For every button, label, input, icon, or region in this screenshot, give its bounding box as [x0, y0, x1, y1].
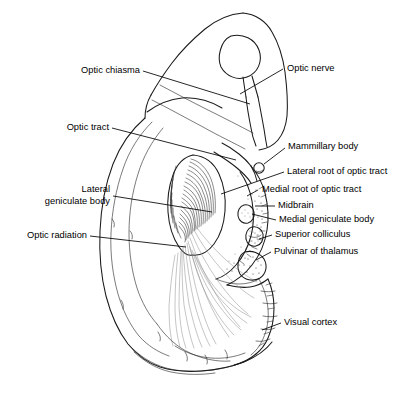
optic-nerve-stalk [246, 97, 267, 147]
label-lateral-geniculate-body-line2: geniculate body [45, 196, 110, 206]
label-pulvinar-of-thalamus: Pulvinar of thalamus [274, 246, 359, 256]
label-optic-radiation: Optic radiation [27, 230, 87, 240]
leader-optic-tract [112, 128, 236, 160]
superior-colliculus-shape [246, 227, 263, 246]
optic-radiation-fibers [169, 225, 257, 348]
eyeball-orbit-outline [219, 35, 260, 97]
leader-lines [90, 69, 285, 330]
label-medial-root-of-optic-tract: Medial root of optic tract [262, 184, 362, 194]
midbrain-brainstem [216, 166, 268, 287]
label-optic-nerve: Optic nerve [287, 63, 335, 73]
label-lateral-root-of-optic-tract: Lateral root of optic tract [287, 166, 388, 176]
diagram-canvas: Optic chiasma Optic nerve Optic tract Ma… [0, 0, 416, 393]
leader-mammillary-body [264, 148, 285, 164]
label-visual-cortex: Visual cortex [284, 317, 337, 327]
lateral-geniculate-body [168, 155, 226, 255]
label-superior-colliculus: Superior colliculus [275, 229, 351, 239]
frontal-gyri-lines [147, 85, 253, 149]
medial-geniculate-body-shape [238, 205, 254, 223]
leader-medial-geniculate [252, 214, 276, 220]
label-medial-geniculate-body: Medial geniculate body [279, 214, 374, 224]
occipital-medial-contours [234, 279, 277, 365]
mammillary-body-shape [254, 163, 264, 173]
leader-optic-radiation [90, 236, 186, 247]
label-mammillary-body: Mammillary body [288, 141, 359, 151]
anatomical-figure-visual-pathway: Optic chiasma Optic nerve Optic tract Ma… [0, 0, 416, 393]
label-optic-tract: Optic tract [67, 122, 110, 132]
frontal-lobe-outline [145, 13, 287, 150]
cerebral-hemisphere-outline [100, 118, 272, 374]
leader-lateral-geniculate [113, 196, 212, 212]
leader-optic-nerve [240, 69, 283, 94]
label-optic-chiasma: Optic chiasma [81, 65, 141, 75]
label-lateral-geniculate-body-line1: Lateral [82, 184, 110, 194]
label-midbrain: Midbrain [278, 200, 314, 210]
leader-medial-root [247, 190, 258, 196]
